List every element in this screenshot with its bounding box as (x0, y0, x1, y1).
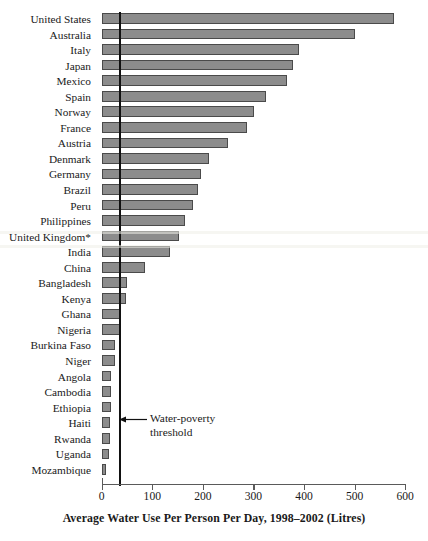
bar (102, 417, 111, 428)
bar (102, 75, 287, 86)
category-label: Brazil (0, 183, 96, 199)
threshold-annotation: Water-poverty threshold (150, 412, 215, 439)
bar-row (102, 401, 406, 417)
bar-row (102, 447, 406, 463)
category-label: China (0, 261, 96, 277)
bar-row (102, 323, 406, 339)
category-label: Ghana (0, 307, 96, 323)
category-label: Uganda (0, 447, 96, 463)
bar-row (102, 245, 406, 261)
category-label: Kenya (0, 292, 96, 308)
bar (102, 433, 110, 444)
bar (102, 262, 146, 273)
category-label: Peru (0, 199, 96, 215)
bar (102, 464, 106, 475)
category-label: Angola (0, 370, 96, 386)
threshold-annotation-line2: threshold (150, 426, 215, 440)
x-axis-tick (102, 484, 103, 490)
bar-row (102, 370, 406, 386)
threshold-annotation-line1: Water-poverty (150, 412, 215, 426)
bar-row (102, 183, 406, 199)
category-label: India (0, 245, 96, 261)
category-label: Mozambique (0, 463, 96, 479)
x-axis-tick-label: 500 (346, 490, 363, 503)
bar (102, 293, 127, 304)
bar-row (102, 90, 406, 106)
category-label: Niger (0, 354, 96, 370)
category-label: United States (0, 12, 96, 28)
bar-row (102, 121, 406, 137)
category-label: Spain (0, 90, 96, 106)
bar (102, 91, 266, 102)
bar-row (102, 152, 406, 168)
category-label: Haiti (0, 416, 96, 432)
x-axis-tick-label: 300 (245, 490, 262, 503)
x-axis-tick-label: 200 (194, 490, 211, 503)
category-label: Nigeria (0, 323, 96, 339)
bar-row (102, 276, 406, 292)
category-label: Germany (0, 167, 96, 183)
bar (102, 355, 115, 366)
bar (102, 184, 198, 195)
bar-row (102, 43, 406, 59)
category-label: Philippines (0, 214, 96, 230)
bar-row (102, 385, 406, 401)
category-label: Bangladesh (0, 276, 96, 292)
bar-row (102, 214, 406, 230)
bar (102, 386, 112, 397)
bar (102, 277, 127, 288)
bar-row (102, 230, 406, 246)
bar (102, 371, 112, 382)
x-axis-title: Average Water Use Per Person Per Day, 19… (0, 511, 428, 526)
bar-row (102, 12, 406, 28)
bar-row (102, 338, 406, 354)
bar-row (102, 59, 406, 75)
bar (102, 231, 179, 242)
bar-row (102, 136, 406, 152)
bar-row (102, 354, 406, 370)
bar (102, 153, 209, 164)
x-axis-tick (304, 484, 305, 490)
threshold-arrow-icon (118, 415, 148, 424)
category-label: Rwanda (0, 432, 96, 448)
category-label: Austria (0, 136, 96, 152)
bar (102, 60, 293, 71)
category-label: Ethiopia (0, 401, 96, 417)
bar-rows (102, 12, 406, 484)
bar (102, 13, 394, 24)
category-label: Mexico (0, 74, 96, 90)
bar (102, 449, 110, 460)
x-axis-tick-label: 600 (396, 490, 413, 503)
bar-row (102, 463, 406, 479)
bar (102, 169, 201, 180)
x-axis-tick (203, 484, 204, 490)
y-axis-category-labels: United StatesAustraliaItalyJapanMexicoSp… (0, 12, 96, 484)
x-axis-tick (152, 484, 153, 490)
category-label: France (0, 121, 96, 137)
bar (102, 246, 170, 257)
x-axis-tick-label: 100 (144, 490, 161, 503)
bar (102, 122, 247, 133)
bar-row (102, 307, 406, 323)
x-axis-tick (355, 484, 356, 490)
bar (102, 138, 228, 149)
category-label: Japan (0, 59, 96, 75)
bar (102, 324, 120, 335)
water-use-bar-chart: United StatesAustraliaItalyJapanMexicoSp… (0, 0, 428, 541)
bar-row (102, 167, 406, 183)
bar (102, 106, 254, 117)
x-axis-tick-label: 0 (99, 490, 105, 503)
bar-row (102, 28, 406, 44)
bar-row (102, 292, 406, 308)
x-axis-tick (253, 484, 254, 490)
category-label: Cambodia (0, 385, 96, 401)
bar (102, 402, 111, 413)
bar-row (102, 199, 406, 215)
bar (102, 200, 193, 211)
category-label: Italy (0, 43, 96, 59)
category-label: United Kingdom* (0, 230, 96, 246)
x-axis-tick (405, 484, 406, 490)
bar (102, 340, 116, 351)
bar (102, 29, 355, 40)
x-axis-tick-label: 400 (295, 490, 312, 503)
